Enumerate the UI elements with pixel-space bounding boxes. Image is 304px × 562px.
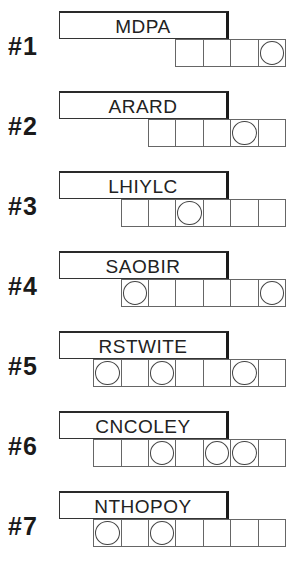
answer-cell-circled[interactable] bbox=[148, 439, 176, 467]
puzzle-number: #4 bbox=[8, 272, 38, 301]
answer-cell[interactable] bbox=[258, 119, 286, 147]
answer-cell[interactable] bbox=[175, 119, 203, 147]
answer-cells bbox=[94, 519, 286, 547]
answer-cell[interactable] bbox=[175, 519, 203, 547]
answer-cell-circled[interactable] bbox=[258, 39, 286, 67]
jumble-puzzle-4: #4 SAOBIR bbox=[0, 251, 304, 331]
answer-cell-circled[interactable] bbox=[121, 279, 149, 307]
answer-cell-circled[interactable] bbox=[230, 439, 258, 467]
scrambled-word-box: MDPA bbox=[59, 11, 229, 39]
scrambled-word-box: RSTWITE bbox=[59, 331, 229, 359]
answer-cells bbox=[122, 199, 286, 227]
puzzle-number: #6 bbox=[8, 432, 38, 461]
answer-cell-circled[interactable] bbox=[230, 119, 258, 147]
answer-cells bbox=[149, 119, 286, 147]
jumble-puzzle-3: #3 LHIYLC bbox=[0, 171, 304, 251]
answer-cell[interactable] bbox=[258, 519, 286, 547]
scrambled-word: SAOBIR bbox=[60, 256, 226, 278]
answer-cell-circled[interactable] bbox=[93, 359, 121, 387]
scrambled-word: RSTWITE bbox=[60, 336, 226, 358]
answer-cell-circled[interactable] bbox=[148, 359, 176, 387]
answer-cell[interactable] bbox=[121, 439, 149, 467]
jumble-puzzle-6: #6 CNCOLEY bbox=[0, 411, 304, 491]
answer-cell[interactable] bbox=[175, 39, 203, 67]
scrambled-word: LHIYLC bbox=[60, 176, 226, 198]
answer-cell[interactable] bbox=[203, 359, 231, 387]
answer-cell-circled[interactable] bbox=[203, 439, 231, 467]
answer-cell[interactable] bbox=[175, 439, 203, 467]
jumble-puzzle-5: #5 RSTWITE bbox=[0, 331, 304, 411]
scrambled-word: NTHOPOY bbox=[60, 496, 226, 518]
answer-cell[interactable] bbox=[121, 199, 149, 227]
scrambled-word-box: CNCOLEY bbox=[59, 411, 229, 439]
answer-cell[interactable] bbox=[148, 199, 176, 227]
answer-cells bbox=[122, 279, 286, 307]
answer-cell-circled[interactable] bbox=[175, 199, 203, 227]
scrambled-word-box: SAOBIR bbox=[59, 251, 229, 279]
puzzle-number: #2 bbox=[8, 112, 38, 141]
answer-cell[interactable] bbox=[230, 279, 258, 307]
answer-cells bbox=[94, 439, 286, 467]
answer-cell-circled[interactable] bbox=[258, 279, 286, 307]
answer-cell[interactable] bbox=[230, 199, 258, 227]
answer-cell[interactable] bbox=[175, 359, 203, 387]
answer-cell[interactable] bbox=[203, 39, 231, 67]
scrambled-word: CNCOLEY bbox=[60, 416, 226, 438]
answer-cell[interactable] bbox=[258, 359, 286, 387]
scrambled-word-box: ARARD bbox=[59, 91, 229, 119]
scrambled-word-box: LHIYLC bbox=[59, 171, 229, 199]
puzzle-number: #7 bbox=[8, 512, 38, 541]
answer-cell[interactable] bbox=[175, 279, 203, 307]
scrambled-word-box: NTHOPOY bbox=[59, 491, 229, 519]
answer-cell[interactable] bbox=[203, 199, 231, 227]
jumble-puzzle-2: #2 ARARD bbox=[0, 91, 304, 171]
jumble-puzzle-1: #1 MDPA bbox=[0, 11, 304, 91]
answer-cell[interactable] bbox=[203, 279, 231, 307]
answer-cell[interactable] bbox=[121, 519, 149, 547]
answer-cells bbox=[94, 359, 286, 387]
answer-cell[interactable] bbox=[121, 359, 149, 387]
answer-cell-circled[interactable] bbox=[230, 359, 258, 387]
answer-cell[interactable] bbox=[258, 199, 286, 227]
answer-cell-circled[interactable] bbox=[93, 519, 121, 547]
answer-cells bbox=[176, 39, 286, 67]
answer-cell[interactable] bbox=[258, 439, 286, 467]
scrambled-word: MDPA bbox=[60, 16, 226, 38]
puzzle-number: #5 bbox=[8, 352, 38, 381]
answer-cell[interactable] bbox=[230, 519, 258, 547]
answer-cell[interactable] bbox=[93, 439, 121, 467]
answer-cell[interactable] bbox=[148, 279, 176, 307]
answer-cell[interactable] bbox=[230, 39, 258, 67]
answer-cell[interactable] bbox=[148, 119, 176, 147]
puzzle-number: #3 bbox=[8, 192, 38, 221]
puzzle-number: #1 bbox=[8, 32, 38, 61]
answer-cell[interactable] bbox=[203, 119, 231, 147]
answer-cell[interactable] bbox=[203, 519, 231, 547]
scrambled-word: ARARD bbox=[60, 96, 226, 118]
answer-cell-circled[interactable] bbox=[148, 519, 176, 547]
jumble-puzzle-7: #7 NTHOPOY bbox=[0, 491, 304, 562]
